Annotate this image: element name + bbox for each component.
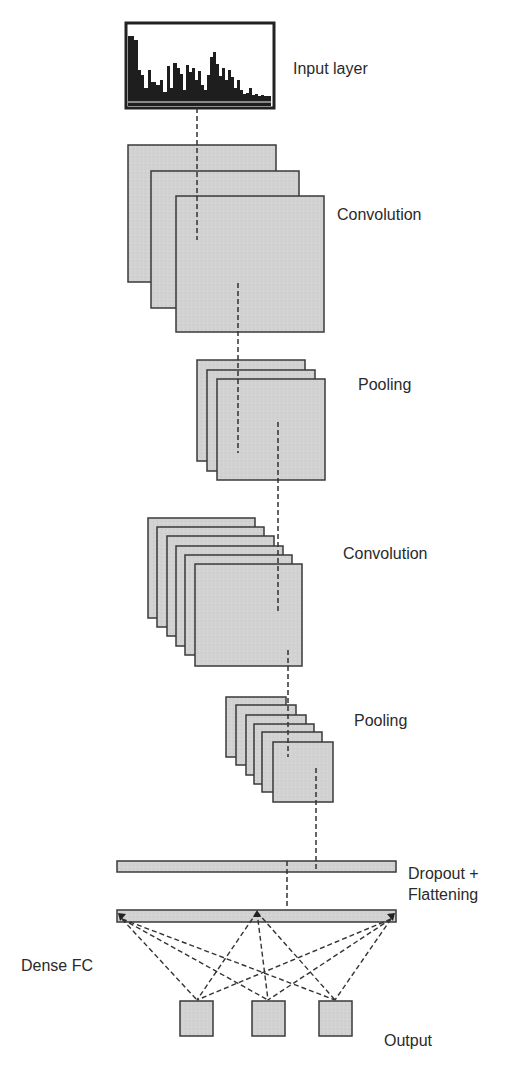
output-node-3	[319, 1001, 352, 1036]
dense-connections	[122, 912, 391, 1000]
dropout-flatten-bar	[117, 861, 396, 872]
label-dense-fc: Dense FC	[21, 956, 93, 976]
label-output: Output	[384, 1031, 432, 1051]
label-input-layer: Input layer	[293, 59, 368, 79]
pool1-feature-maps	[197, 360, 325, 480]
label-pooling-1: Pooling	[358, 375, 411, 395]
cnn-diagram	[0, 0, 523, 1078]
label-convolution-2: Convolution	[343, 544, 428, 564]
output-node-1	[180, 1001, 213, 1036]
label-pooling-2: Pooling	[354, 711, 407, 731]
input-layer-spectrum	[126, 23, 274, 108]
label-flattening: Flattening	[408, 885, 478, 905]
output-nodes	[180, 1001, 352, 1036]
conv1-feature-maps	[128, 145, 324, 332]
label-convolution-1: Convolution	[337, 205, 422, 225]
output-node-2	[252, 1001, 285, 1036]
label-dropout: Dropout +	[408, 864, 479, 884]
conv2-feature-maps	[148, 518, 302, 666]
pool2-feature-maps	[226, 697, 333, 802]
